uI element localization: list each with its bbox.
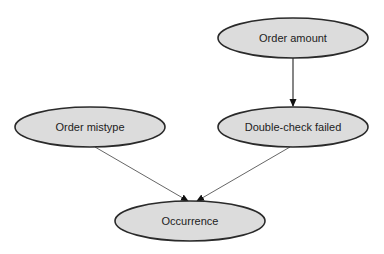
edge-order-mistype-to-occurrence: [95, 147, 188, 201]
node-occurrence-label: Occurrence: [162, 215, 219, 227]
node-order-amount-label: Order amount: [259, 32, 327, 44]
causal-diagram: Order amount Order mistype Double-check …: [0, 0, 384, 254]
node-order-amount[interactable]: Order amount: [218, 18, 368, 58]
node-order-mistype-label: Order mistype: [55, 121, 124, 133]
node-double-check-failed[interactable]: Double-check failed: [218, 107, 368, 147]
node-double-check-failed-label: Double-check failed: [245, 121, 342, 133]
edge-double-check-failed-to-occurrence: [197, 147, 290, 201]
node-order-mistype[interactable]: Order mistype: [15, 107, 165, 147]
node-occurrence[interactable]: Occurrence: [115, 201, 265, 241]
